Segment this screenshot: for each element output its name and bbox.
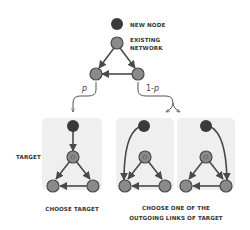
existing-node: [90, 68, 102, 80]
existing-network: [90, 37, 144, 80]
new-node: [200, 120, 212, 132]
target-node: [139, 151, 151, 163]
panel-choose-target: [42, 118, 102, 192]
existing-node: [180, 180, 192, 192]
branch-1-p-label: 1-p: [146, 84, 159, 93]
network-growth-diagram: NEW NODE EXISTING NETWORK p 1-p TARGET: [0, 0, 250, 230]
existing-node: [159, 180, 171, 192]
caption-choose-links-1: CHOOSE ONE OF THE: [142, 205, 210, 211]
branch-1-p-arrow-split: [173, 103, 180, 112]
legend-existing-network-label-2: NETWORK: [130, 45, 163, 51]
target-node: [67, 151, 79, 163]
existing-node: [47, 180, 59, 192]
existing-node: [119, 180, 131, 192]
branch-arrows: p 1-p: [73, 82, 180, 112]
panel-outgoing-link-left: [116, 118, 174, 192]
new-node: [67, 120, 79, 132]
new-node-icon: [111, 18, 123, 30]
target-label: TARGET: [16, 154, 41, 160]
legend-new-node-label: NEW NODE: [130, 22, 165, 28]
existing-node: [87, 180, 99, 192]
existing-node: [132, 68, 144, 80]
edge: [99, 48, 114, 68]
existing-node: [220, 180, 232, 192]
panel-outgoing-link-right: [177, 118, 235, 192]
caption-choose-links-2: OUTGOING LINKS OF TARGET: [129, 215, 223, 221]
edge: [120, 48, 135, 68]
new-node: [138, 120, 150, 132]
target-node: [200, 151, 212, 163]
caption-choose-target: CHOOSE TARGET: [45, 206, 99, 212]
existing-node: [111, 37, 123, 49]
branch-p-label: p: [81, 84, 87, 93]
legend-existing-network-label-1: EXISTING: [130, 37, 161, 43]
